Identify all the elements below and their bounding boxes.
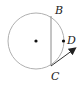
center-point <box>34 39 37 42</box>
point-d <box>62 39 65 42</box>
label-c: C <box>51 70 60 83</box>
label-d: D <box>66 34 76 47</box>
geometry-diagram: B D C <box>0 0 81 88</box>
label-b: B <box>54 4 63 17</box>
ray-from-c <box>51 49 75 67</box>
